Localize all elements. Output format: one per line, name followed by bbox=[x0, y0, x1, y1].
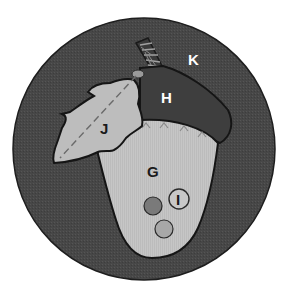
label-g: G bbox=[147, 163, 159, 180]
label-k: K bbox=[188, 51, 199, 68]
acorn-diagram: K H J G I bbox=[0, 0, 286, 291]
label-j: J bbox=[100, 120, 108, 137]
light-dot bbox=[155, 220, 173, 238]
label-h: H bbox=[161, 89, 172, 106]
label-i: I bbox=[176, 191, 180, 208]
leaf-stalk bbox=[132, 70, 144, 78]
dark-dot bbox=[144, 197, 162, 215]
